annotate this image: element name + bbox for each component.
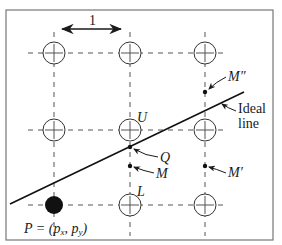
label-M: M (156, 167, 168, 181)
label-Q: Q (160, 151, 170, 165)
ideal-line-label: Ideal line (238, 101, 266, 131)
pixel-crosshairs (45, 44, 214, 214)
label-U: U (137, 111, 147, 125)
pixel-p-label-close: ) (82, 221, 87, 236)
label-M-prime: M′ (228, 166, 243, 180)
pointer-Q (134, 149, 158, 157)
pointer-M-prime (209, 167, 226, 173)
ideal-line-label-line2: line (238, 116, 266, 131)
point-Q (128, 145, 132, 149)
point-M-prime (203, 164, 207, 168)
point-M-double-prime (203, 90, 207, 94)
point-M (128, 164, 132, 168)
label-pointers (134, 77, 236, 173)
pixel-p-label-prefix: P = (p (24, 221, 60, 236)
ideal-line-label-line1: Ideal (238, 101, 266, 116)
pixel-p-label-sep: , p (64, 221, 78, 236)
pixel-p-filled (45, 196, 63, 214)
pointer-M (134, 167, 154, 173)
ideal-line (10, 92, 244, 204)
label-M-double-prime: M″ (228, 70, 246, 84)
pointer-M-double-prime (209, 77, 226, 89)
pixel-p-label: P = (px, py) (24, 222, 87, 237)
pointer-ideal-line (222, 104, 236, 111)
unit-spacing-label: 1 (89, 14, 96, 28)
label-L: L (137, 185, 145, 199)
